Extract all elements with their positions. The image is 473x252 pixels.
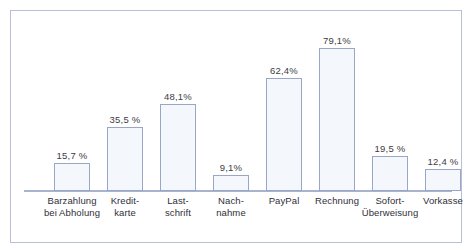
- bar-7: [372, 156, 408, 191]
- bar-4: [213, 175, 249, 191]
- bar-value-label-4: 9,1%: [201, 162, 261, 173]
- bar-3: [160, 104, 196, 191]
- bar-6: [319, 48, 355, 191]
- bar-5: [266, 78, 302, 191]
- bar-value-label-2: 35,5 %: [95, 114, 155, 125]
- bar-value-label-5: 62,4%: [254, 65, 314, 76]
- plot-area: 15,7 %Barzahlung bei Abholung35,5 %Kredi…: [10, 10, 462, 243]
- bar-category-label-8: Vorkasse: [410, 195, 473, 207]
- bar-value-label-6: 79,1%: [307, 35, 367, 46]
- bar-chart-figure: 15,7 %Barzahlung bei Abholung35,5 %Kredi…: [0, 0, 473, 252]
- bar-1: [54, 163, 90, 191]
- bar-value-label-7: 19,5 %: [360, 143, 420, 154]
- bar-2: [107, 127, 143, 191]
- bar-value-label-8: 12,4 %: [413, 156, 473, 167]
- bar-value-label-3: 48,1%: [148, 91, 208, 102]
- bar-8: [425, 169, 461, 191]
- bar-value-label-1: 15,7 %: [42, 150, 102, 161]
